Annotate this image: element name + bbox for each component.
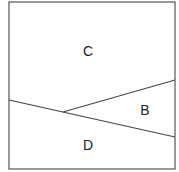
region-label-d: D	[83, 137, 93, 153]
region-label-b: B	[140, 102, 149, 118]
region-label-c: C	[83, 43, 93, 59]
upper-dividing-line	[63, 80, 175, 112]
region-diagram: C B D	[0, 0, 179, 172]
lower-dividing-line	[9, 100, 175, 137]
